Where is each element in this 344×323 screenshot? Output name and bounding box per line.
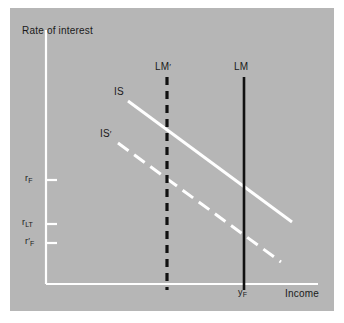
plot-canvas: [0, 0, 344, 323]
y-tick-label-rf-sub: F: [28, 177, 32, 184]
x-tick-label-yf: yF: [238, 288, 247, 298]
y-tick-label-rlt-sub: LT: [25, 221, 33, 228]
y-axis-title: Rate of interest: [22, 26, 93, 36]
curve-label-is: IS: [114, 87, 124, 97]
y-tick-label-rlt: rLT: [22, 218, 33, 228]
y-tick-label-rf: rF: [25, 174, 32, 184]
curve-label-lm-prime-base: LM: [155, 61, 169, 72]
y-tick-label-rf-prime: r′F: [25, 237, 34, 247]
curve-label-is-prime-mark: ′: [110, 129, 112, 139]
x-axis-title: Income: [285, 289, 319, 299]
curve-label-is-prime-base: IS: [100, 128, 110, 139]
curve-label-lm: LM: [234, 62, 248, 72]
curve-is-prime: [118, 143, 281, 262]
curve-label-lm-prime-mark: ′: [169, 62, 171, 72]
curve-label-is-prime: IS′: [100, 129, 112, 139]
x-tick-label-yf-sub: F: [243, 291, 247, 298]
curve-is: [128, 101, 292, 222]
figure-root: Rate of interest Income IS IS′ LM′ LM rF…: [0, 0, 344, 323]
curve-label-lm-prime: LM′: [155, 62, 171, 72]
y-tick-label-rf-prime-sub: F: [30, 240, 34, 247]
